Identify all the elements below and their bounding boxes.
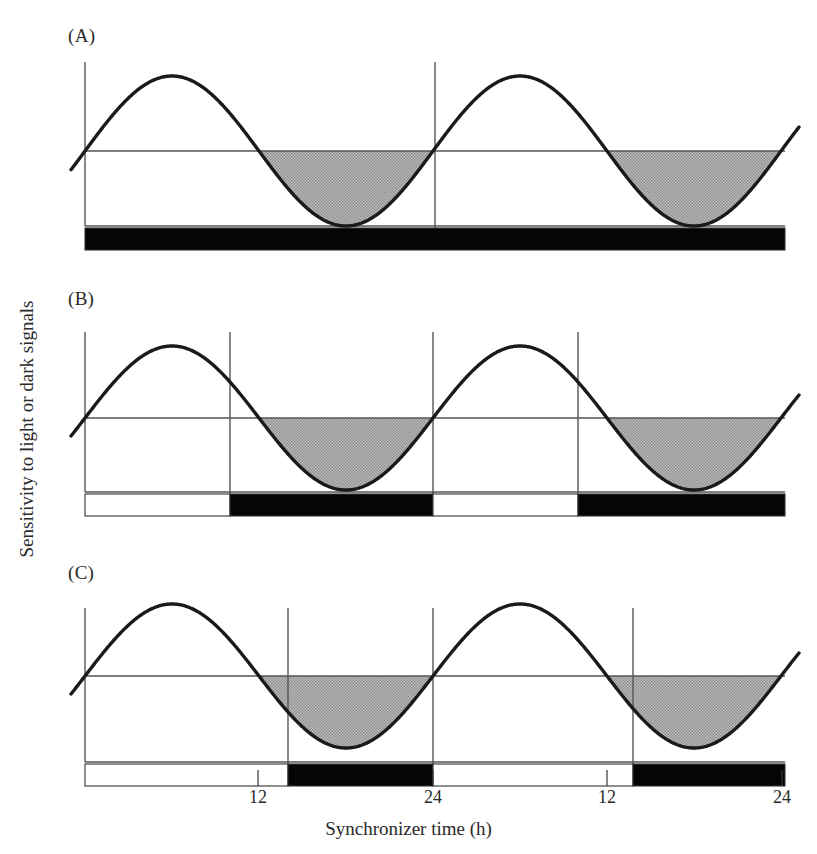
- bar-segment-dark-c-3: [633, 764, 785, 786]
- bar-segment-dark-c-1: [288, 764, 433, 786]
- shaded-region-b-1: [608, 418, 782, 490]
- panel-b: [71, 332, 799, 516]
- x-tick-2: 12: [598, 787, 616, 808]
- bar-segment-light-c-2: [433, 764, 633, 786]
- x-tick-0: 12: [249, 787, 267, 808]
- bar-segment-light-b-2: [433, 494, 578, 516]
- shaded-region-b-0: [260, 418, 433, 490]
- plot-canvas: [0, 0, 817, 854]
- circadian-sensitivity-figure: Sensitivity to light or dark signals (A)…: [0, 0, 817, 854]
- shaded-region-a-1: [608, 151, 782, 226]
- panel-c: [71, 604, 799, 786]
- panel-a: [71, 62, 799, 250]
- x-tick-3: 24: [773, 787, 791, 808]
- x-tick-1: 24: [424, 787, 442, 808]
- bar-segment-dark-b-3: [578, 494, 785, 516]
- bar-segment-light-b-0: [85, 494, 230, 516]
- shaded-region-a-0: [260, 151, 434, 226]
- bar-segment-dark-a-0: [85, 228, 785, 250]
- bar-segment-dark-b-1: [230, 494, 433, 516]
- x-axis-label: Synchronizer time (h): [0, 818, 817, 840]
- shaded-region-c-0: [260, 676, 433, 748]
